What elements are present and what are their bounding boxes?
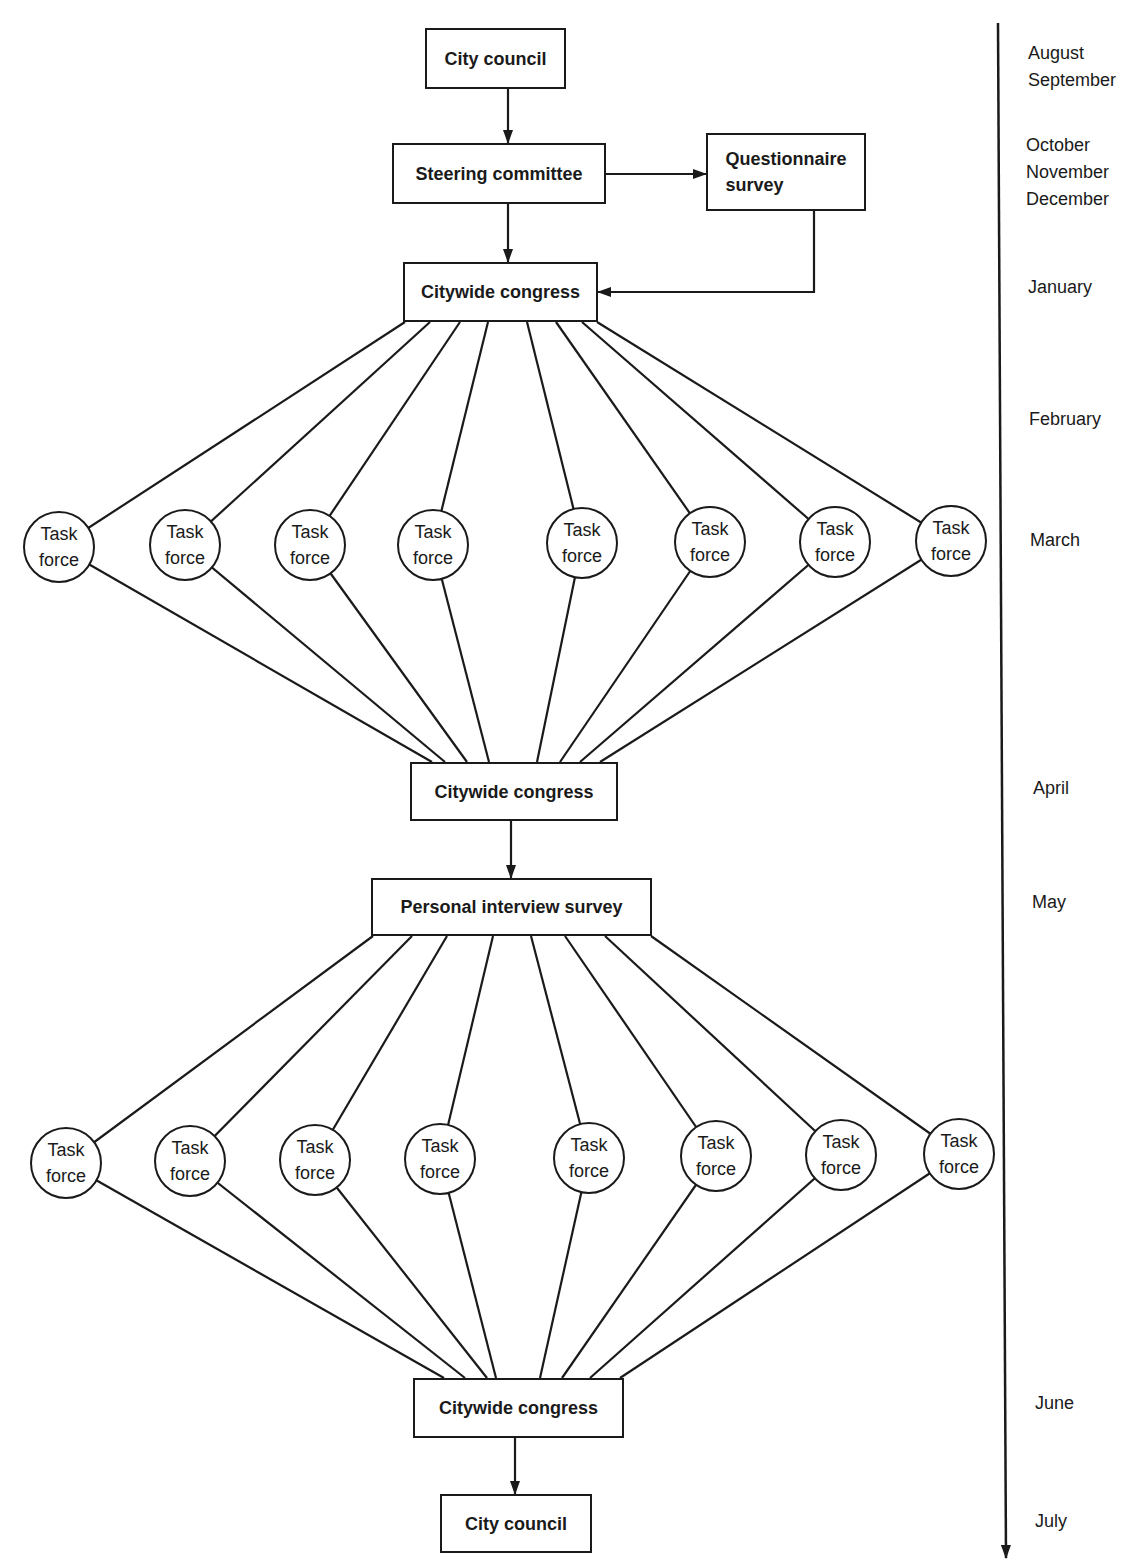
box-citywide-congress-1: Citywide congress: [403, 262, 598, 322]
task-force-label: force: [821, 1155, 861, 1181]
task-force-row1-8: Taskforce: [915, 505, 987, 577]
month-label: March: [1030, 527, 1080, 554]
fan-connector-lines: [59, 322, 959, 1378]
box-citywide-congress-2: Citywide congress: [410, 762, 618, 821]
task-force-label: force: [46, 1163, 86, 1189]
task-force-row2-5: Taskforce: [553, 1122, 625, 1194]
task-force-label: Task: [291, 519, 328, 545]
task-force-row2-8: Taskforce: [923, 1118, 995, 1190]
box-label: Questionnaire survey: [725, 146, 846, 198]
task-force-label: Task: [421, 1133, 458, 1159]
task-force-label: force: [295, 1160, 335, 1186]
task-force-label: force: [39, 547, 79, 573]
month-label: August September: [1028, 40, 1116, 94]
task-force-row2-1: Taskforce: [30, 1127, 102, 1199]
box-city-council-bottom: City council: [440, 1494, 592, 1553]
task-force-row2-4: Taskforce: [404, 1123, 476, 1195]
arrow-questionnaire-survey-to-citywide-congress-1: [598, 211, 814, 292]
box-label: Steering committee: [415, 161, 582, 187]
box-label: Citywide congress: [434, 779, 593, 805]
task-force-label: Task: [697, 1130, 734, 1156]
task-force-label: Task: [166, 519, 203, 545]
task-force-label: force: [170, 1161, 210, 1187]
task-force-row1-2: Taskforce: [149, 509, 221, 581]
task-force-label: force: [815, 542, 855, 568]
task-force-label: force: [696, 1156, 736, 1182]
task-force-label: Task: [47, 1137, 84, 1163]
task-force-row1-5: Taskforce: [546, 507, 618, 579]
month-label: July: [1035, 1508, 1067, 1535]
task-force-label: Task: [414, 519, 451, 545]
month-label: October November December: [1026, 132, 1109, 213]
task-force-label: force: [562, 543, 602, 569]
timeline-axis: [998, 23, 1006, 1558]
task-force-row2-3: Taskforce: [279, 1124, 351, 1196]
task-force-label: Task: [691, 516, 728, 542]
task-force-label: force: [290, 545, 330, 571]
task-force-label: force: [931, 541, 971, 567]
task-force-label: Task: [296, 1134, 333, 1160]
box-personal-interview-survey: Personal interview survey: [371, 878, 652, 936]
task-force-label: force: [569, 1158, 609, 1184]
task-force-row2-6: Taskforce: [680, 1120, 752, 1192]
task-force-label: Task: [570, 1132, 607, 1158]
month-label: May: [1032, 889, 1066, 916]
month-label: January: [1028, 274, 1092, 301]
month-label: April: [1033, 775, 1069, 802]
task-force-label: Task: [40, 521, 77, 547]
task-force-row1-1: Taskforce: [23, 511, 95, 583]
box-label: Citywide congress: [439, 1395, 598, 1421]
task-force-row2-7: Taskforce: [805, 1119, 877, 1191]
task-force-label: Task: [940, 1128, 977, 1154]
box-label: Personal interview survey: [400, 894, 622, 920]
task-force-label: Task: [822, 1129, 859, 1155]
task-force-label: force: [165, 545, 205, 571]
box-label: Citywide congress: [421, 279, 580, 305]
box-city-council-top: City council: [425, 28, 566, 89]
box-citywide-congress-3: Citywide congress: [413, 1378, 624, 1438]
month-label: June: [1035, 1390, 1074, 1417]
task-force-label: force: [939, 1154, 979, 1180]
task-force-label: Task: [932, 515, 969, 541]
task-force-row1-3: Taskforce: [274, 509, 346, 581]
task-force-row1-7: Taskforce: [799, 506, 871, 578]
task-force-label: Task: [563, 517, 600, 543]
task-force-label: Task: [816, 516, 853, 542]
task-force-label: force: [413, 545, 453, 571]
box-label: City council: [465, 1511, 567, 1537]
task-force-label: force: [690, 542, 730, 568]
task-force-label: force: [420, 1159, 460, 1185]
box-label: City council: [444, 46, 546, 72]
task-force-label: Task: [171, 1135, 208, 1161]
task-force-row2-2: Taskforce: [154, 1125, 226, 1197]
box-steering-committee: Steering committee: [392, 143, 606, 204]
task-force-row1-4: Taskforce: [397, 509, 469, 581]
box-questionnaire-survey: Questionnaire survey: [706, 133, 866, 211]
month-label: February: [1029, 406, 1101, 433]
task-force-row1-6: Taskforce: [674, 506, 746, 578]
